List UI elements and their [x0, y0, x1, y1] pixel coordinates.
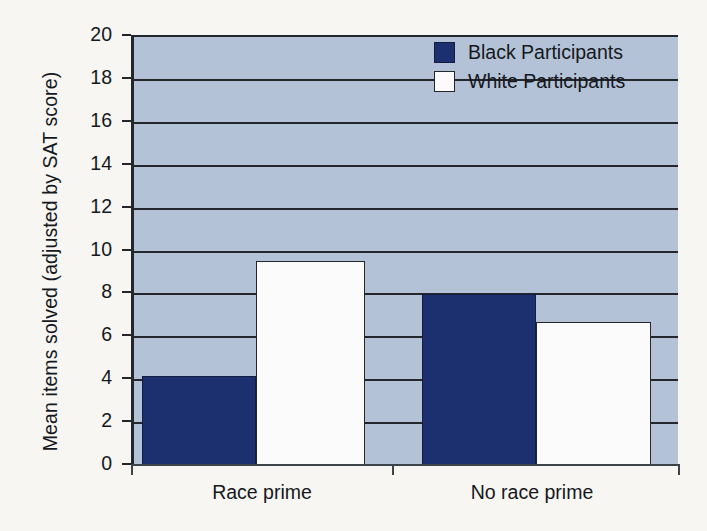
bar [142, 376, 256, 466]
y-axis-tick-labels: 02468101214161820 [60, 35, 112, 464]
y-axis-tick-mark [122, 77, 131, 79]
y-axis-tick-mark [122, 463, 131, 465]
x-axis-tick-mark [392, 464, 394, 475]
y-axis-tick-label: 2 [60, 411, 112, 431]
legend-item-label: White Participants [468, 72, 625, 92]
x-axis-group-label: No race prime [471, 481, 593, 504]
y-axis-tick-label: 16 [60, 111, 112, 131]
y-axis-tick-label: 14 [60, 154, 112, 174]
y-axis-tick-label: 6 [60, 326, 112, 346]
y-axis-tick-mark [122, 377, 131, 379]
y-axis-tick-mark [122, 291, 131, 293]
bar-chart-figure: Mean items solved (adjusted by SAT score… [0, 0, 707, 531]
legend-item-label: Black Participants [468, 43, 623, 63]
y-axis-tick-label: 8 [60, 283, 112, 303]
x-axis-tick-mark [678, 464, 680, 475]
legend-swatch-icon [434, 71, 455, 92]
bar-series-container [134, 37, 678, 466]
y-axis-tick-label: 12 [60, 197, 112, 217]
bar [536, 322, 651, 466]
x-axis-line [131, 464, 678, 466]
y-axis-tick-mark [122, 163, 131, 165]
y-axis-tick-label: 4 [60, 368, 112, 388]
legend-swatch-icon [434, 42, 455, 63]
bar [422, 294, 536, 466]
x-axis-group-label: Race prime [212, 481, 312, 504]
y-axis-tick-marks [122, 35, 131, 464]
y-axis-title: Mean items solved (adjusted by SAT score… [39, 32, 62, 492]
y-axis-tick-label: 0 [60, 454, 112, 474]
y-axis-tick-mark [122, 420, 131, 422]
chart-legend: Black ParticipantsWhite Participants [434, 42, 625, 92]
legend-item: Black Participants [434, 42, 625, 63]
y-axis-tick-label: 18 [60, 68, 112, 88]
y-axis-tick-mark [122, 34, 131, 36]
y-axis-tick-mark [122, 120, 131, 122]
plot-area [131, 35, 678, 466]
y-axis-tick-mark [122, 249, 131, 251]
legend-item: White Participants [434, 71, 625, 92]
x-axis-tick-mark [131, 464, 133, 475]
bar [256, 261, 365, 466]
y-axis-tick-label: 10 [60, 240, 112, 260]
y-axis-tick-mark [122, 334, 131, 336]
y-axis-tick-mark [122, 206, 131, 208]
y-axis-tick-label: 20 [60, 25, 112, 45]
